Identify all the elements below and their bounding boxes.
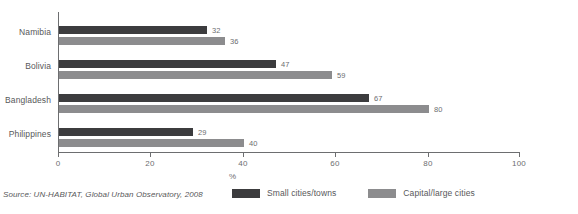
source-note: Source: UN-HABITAT, Global Urban Observa… — [3, 190, 203, 199]
bar-value-namibia-small: 32 — [212, 26, 221, 35]
plot-area: 0 20 40 60 80 100 % 32 36 47 59 67 80 29… — [58, 12, 520, 152]
bar-value-bolivia-small: 47 — [281, 60, 290, 69]
x-tick-label-80: 80 — [423, 159, 432, 168]
bar-value-philippines-small: 29 — [198, 128, 207, 137]
x-tick-label-0: 0 — [56, 159, 61, 168]
bar-bangladesh-small-cities — [59, 94, 369, 102]
x-tick-0 — [58, 153, 59, 157]
bar-value-bolivia-large: 59 — [337, 71, 346, 80]
x-tick-40 — [243, 153, 244, 157]
x-tick-label-40: 40 — [238, 159, 247, 168]
bar-philippines-small-cities — [59, 128, 193, 136]
legend-swatch-icon-small-cities — [232, 189, 260, 198]
bar-bolivia-capital-large-cities — [59, 71, 332, 79]
bar-namibia-small-cities — [59, 26, 207, 34]
bar-bolivia-small-cities — [59, 60, 276, 68]
legend: Small cities/towns Capital/large cities — [232, 188, 475, 198]
x-tick-60 — [335, 153, 336, 157]
bar-namibia-capital-large-cities — [59, 37, 225, 45]
x-tick-100 — [519, 153, 520, 157]
x-tick-label-20: 20 — [145, 159, 154, 168]
x-axis-line — [58, 152, 520, 153]
x-tick-80 — [428, 153, 429, 157]
bar-philippines-capital-large-cities — [59, 139, 244, 147]
x-tick-20 — [150, 153, 151, 157]
legend-label-small-cities: Small cities/towns — [267, 188, 336, 198]
legend-item-small-cities: Small cities/towns — [232, 188, 336, 198]
bar-value-bangladesh-large: 80 — [434, 105, 443, 114]
legend-item-capital-large-cities: Capital/large cities — [368, 188, 474, 198]
bar-chart: Namibia Bolivia Bangladesh Philippines 0… — [0, 0, 578, 214]
legend-label-capital-large-cities: Capital/large cities — [403, 188, 474, 198]
category-label-namibia: Namibia — [19, 27, 51, 37]
bar-value-bangladesh-small: 67 — [374, 94, 383, 103]
x-tick-label-60: 60 — [330, 159, 339, 168]
category-label-bangladesh: Bangladesh — [5, 95, 51, 105]
x-axis-title: % — [229, 172, 236, 181]
legend-swatch-icon-capital-large-cities — [368, 189, 396, 198]
bar-bangladesh-capital-large-cities — [59, 105, 429, 113]
category-label-bolivia: Bolivia — [25, 61, 51, 71]
category-label-philippines: Philippines — [9, 129, 51, 139]
bar-value-namibia-large: 36 — [230, 37, 239, 46]
bar-value-philippines-large: 40 — [249, 139, 258, 148]
x-tick-label-100: 100 — [512, 159, 526, 168]
